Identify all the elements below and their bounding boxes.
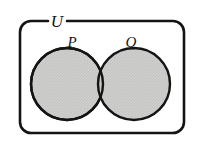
set-label-p: P bbox=[66, 34, 76, 50]
set-label-q: Q bbox=[126, 34, 137, 50]
venn-diagram-canvas: U P Q bbox=[0, 0, 200, 142]
set-circle-q bbox=[98, 48, 170, 120]
venn-diagram-figure: U P Q bbox=[0, 0, 200, 142]
universe-label: U bbox=[51, 12, 65, 31]
